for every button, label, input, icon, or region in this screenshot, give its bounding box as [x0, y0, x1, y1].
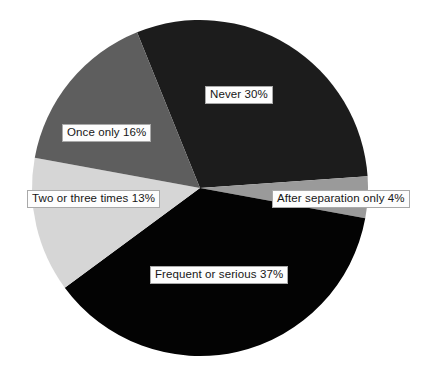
- pie-slice-group: [32, 20, 368, 356]
- pie-chart: Never 30% After separation only 4% Frequ…: [0, 0, 422, 370]
- slice-label-two-or-three-times: Two or three times 13%: [27, 190, 160, 208]
- slice-label-never: Never 30%: [205, 86, 273, 104]
- slice-label-once-only: Once only 16%: [62, 124, 151, 142]
- pie-chart-page: Never 30% After separation only 4% Frequ…: [0, 0, 422, 370]
- slice-label-after-separation-only: After separation only 4%: [272, 190, 410, 208]
- slice-label-frequent-or-serious: Frequent or serious 37%: [150, 266, 288, 284]
- pie-svg: [0, 0, 422, 370]
